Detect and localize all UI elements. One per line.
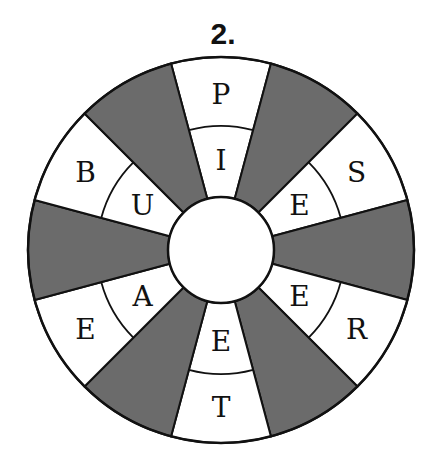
outer-ring-letter: P [212,78,231,111]
inner-ring-letter: A [132,280,154,313]
letter-wheel-puzzle: PISERETEEABU [0,0,441,472]
outer-ring-letter: S [347,156,366,189]
inner-ring-letter: E [289,280,309,313]
wheel-center-hub [168,197,274,303]
inner-ring-letter: E [211,325,231,358]
outer-ring-letter: E [75,313,95,346]
outer-ring-letter: B [75,156,96,189]
inner-ring-letter: E [289,189,309,222]
inner-ring-letter: I [215,144,226,177]
outer-ring-letter: R [346,313,368,346]
inner-ring-letter: U [131,189,155,222]
outer-ring-letter: T [212,391,231,424]
